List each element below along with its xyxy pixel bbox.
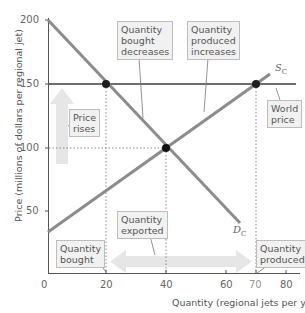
x-tick-20: 20 (100, 279, 113, 290)
demand-curve-label: DC (233, 224, 246, 238)
label-quantity-produced: Quantityproduced (256, 240, 305, 268)
x-tick-70: 70 (249, 279, 262, 290)
point-quantity-bought (102, 80, 110, 88)
label-quantity-exported: Quantityexported (117, 211, 168, 239)
x-axis-title: Quantity (regional jets per year) (172, 297, 305, 308)
x-tick-40: 40 (160, 279, 173, 290)
label-quantity-bought-decreases: Quantityboughtdecreases (117, 21, 173, 60)
point-quantity-produced (252, 80, 260, 88)
label-price-rises: Pricerises (69, 109, 100, 137)
x-tick-60: 60 (220, 279, 233, 290)
y-axis-title: Price (millions of dollars per regional … (13, 16, 24, 236)
label-quantity-produced-increases: Quantityproducedincreases (187, 21, 240, 60)
point-equilibrium (162, 144, 170, 152)
label-world-price: Worldprice (267, 100, 302, 128)
supply-curve-label: SC (275, 62, 287, 76)
x-tick-0: 0 (41, 279, 47, 290)
label-quantity-bought: Quantitybought (56, 240, 105, 268)
supply-curve (48, 74, 270, 232)
quantity-exported-arrow (110, 250, 252, 273)
y-tick-50: 50 (26, 205, 39, 216)
x-tick-80: 80 (280, 279, 293, 290)
